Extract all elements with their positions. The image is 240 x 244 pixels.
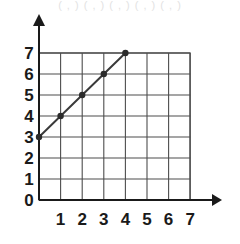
y-tick-label: 0: [24, 191, 33, 210]
x-tick-label: 5: [142, 210, 151, 229]
x-tick-label: 3: [99, 210, 108, 229]
data-point: [101, 71, 107, 77]
x-tick-label: 6: [164, 210, 173, 229]
x-axis-arrow: [212, 194, 222, 206]
y-tick-label: 1: [24, 170, 33, 189]
y-tick-label: 4: [24, 107, 34, 126]
y-tick-labels: 01234567: [24, 44, 34, 210]
data-point: [79, 92, 85, 98]
y-tick-label: 5: [24, 86, 33, 105]
x-tick-labels: 1234567: [56, 210, 195, 229]
x-tick-label: 2: [77, 210, 86, 229]
line-graph-svg: 1234567 01234567: [0, 0, 240, 244]
data-point: [36, 134, 42, 140]
data-point: [57, 113, 63, 119]
x-tick-label: 7: [185, 210, 194, 229]
x-tick-label: 4: [121, 210, 131, 229]
y-tick-label: 2: [24, 149, 33, 168]
y-tick-label: 7: [24, 44, 33, 63]
x-tick-label: 1: [56, 210, 65, 229]
grid-frame: [39, 53, 190, 200]
y-axis-arrow: [33, 14, 45, 26]
data-point: [122, 50, 128, 56]
y-tick-label: 6: [24, 65, 33, 84]
coordinate-grid-figure: ( , ) ( , ) ( , ) ( , ) ( , ) 1234567 01…: [0, 0, 240, 244]
faint-header-text: ( , ) ( , ) ( , ) ( , ) ( , ): [0, 0, 240, 14]
grid-lines: [39, 53, 190, 200]
y-tick-label: 3: [24, 128, 33, 147]
